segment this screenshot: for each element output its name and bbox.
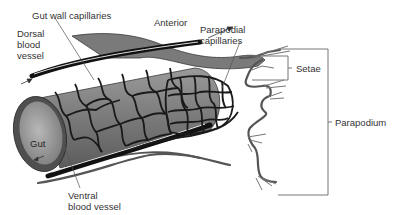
label-parapodial-capillaries: Parapodial capillaries: [200, 24, 245, 46]
label-anterior: Anterior: [154, 17, 187, 28]
label-gut-wall-capillaries: Gut wall capillaries: [32, 10, 111, 21]
label-parapodium: Parapodium: [335, 117, 386, 128]
label-gut: Gut: [30, 138, 45, 149]
label-setae: Setae: [296, 63, 321, 74]
label-dorsal-blood-vessel: Dorsal blood vessel: [17, 28, 44, 61]
label-ventral-blood-vessel: Ventral blood vessel: [68, 190, 121, 212]
setae-bristles: [248, 46, 290, 190]
